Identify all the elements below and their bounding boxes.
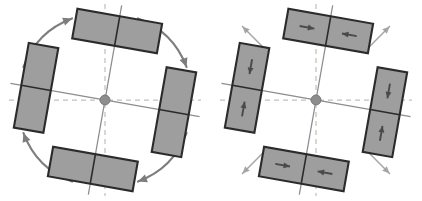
center-pivot-hub xyxy=(311,95,321,105)
block-bottom xyxy=(48,147,138,191)
block-top xyxy=(72,9,162,53)
rotation-arrow-top-right-head xyxy=(180,57,188,67)
rotation-arrow-bottom-right-head xyxy=(138,175,148,183)
block-bottom xyxy=(259,147,349,191)
block-right xyxy=(152,67,196,157)
block-left xyxy=(14,43,58,133)
block-left xyxy=(225,43,269,133)
rotation-panel-graphic xyxy=(0,0,211,201)
rotation-arrow-bottom-left-head xyxy=(23,133,31,143)
convergence-panel-graphic xyxy=(211,0,422,201)
rotation-arrow-top-left-head xyxy=(62,18,72,26)
block-top xyxy=(283,9,373,53)
rotation-panel xyxy=(0,0,211,201)
figure-canvas xyxy=(0,0,422,201)
convergence-panel xyxy=(211,0,422,201)
block-right xyxy=(363,67,407,157)
center-pivot-hub xyxy=(100,95,110,105)
